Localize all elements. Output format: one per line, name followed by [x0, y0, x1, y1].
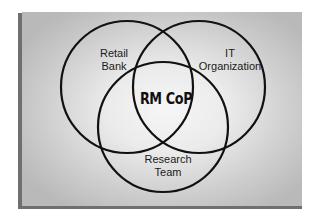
- label-research-team: Research Team: [133, 153, 203, 179]
- circle-retail-bank: [61, 21, 193, 153]
- venn-diagram-canvas: Retail Bank IT Organization Research Tea…: [0, 0, 317, 220]
- label-retail-bank-line1: Retail: [89, 47, 139, 60]
- label-retail-bank-line2: Bank: [89, 60, 139, 73]
- label-research-team-line2: Team: [133, 166, 203, 179]
- intersection-label-rm-cop: RM CoP: [138, 89, 194, 108]
- label-it-organization-line2: Organization: [190, 60, 270, 73]
- label-retail-bank: Retail Bank: [89, 47, 139, 73]
- circle-it-organization: [133, 21, 265, 153]
- label-it-organization-line1: IT: [190, 47, 270, 60]
- label-research-team-line1: Research: [133, 153, 203, 166]
- label-it-organization: IT Organization: [190, 47, 270, 73]
- venn-circles: [0, 0, 317, 220]
